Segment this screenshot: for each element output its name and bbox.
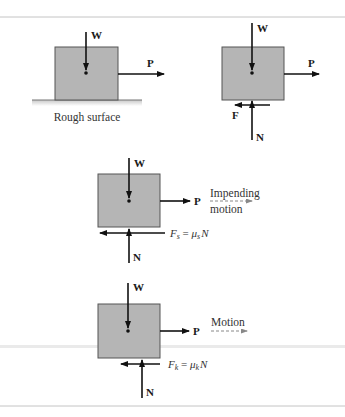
friction-equation: Fs = μsN — [169, 227, 209, 241]
center-dot — [84, 71, 88, 75]
friction-equation: Fk = μkN — [167, 358, 208, 372]
center-dot — [126, 329, 130, 333]
center-dot — [127, 199, 131, 203]
friction-label: F — [232, 109, 239, 121]
normal-label: N — [146, 386, 154, 398]
push-label: P — [308, 57, 315, 69]
motion-text: Impending — [210, 187, 260, 200]
push-label: P — [194, 195, 201, 207]
surface-shadow — [32, 100, 142, 106]
motion-text: Motion — [211, 316, 245, 328]
weight-label: W — [257, 22, 268, 34]
weight-label: W — [133, 281, 144, 293]
friction-free-body-diagrams: W P Rough surface W P F N W P Impending … — [0, 0, 345, 417]
motion-text-2: motion — [210, 203, 243, 215]
normal-label: N — [256, 131, 264, 143]
surface-caption: Rough surface — [54, 111, 121, 124]
normal-label: N — [133, 251, 141, 263]
panel-a: W P Rough surface — [32, 29, 164, 124]
weight-label: W — [91, 29, 102, 41]
center-dot — [250, 71, 254, 75]
panel-c: W P Impending motion Fs = μsN N — [98, 157, 260, 263]
push-label: P — [193, 325, 200, 337]
weight-label: W — [134, 157, 145, 169]
panel-d: W P Motion Fk = μkN N — [98, 281, 247, 398]
scan-band — [0, 345, 345, 348]
panel-b: W P F N — [222, 22, 319, 143]
push-label: P — [147, 57, 154, 69]
